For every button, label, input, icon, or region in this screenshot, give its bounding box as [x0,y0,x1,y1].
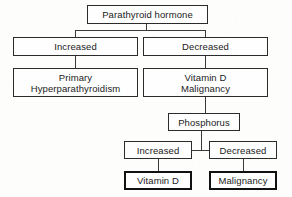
node-vitamin-d[interactable]: Vitamin D [124,171,192,190]
node-pth-increased[interactable]: Increased [13,37,138,56]
node-malignancy[interactable]: Malignancy [209,171,277,190]
node-label: Vitamin D [137,175,179,186]
node-label: Phosphorus [178,117,230,128]
node-parathyroid-hormone[interactable]: Parathyroid hormone [87,5,208,24]
node-label-line2: Malignancy [181,83,230,94]
node-phosphorus[interactable]: Phosphorus [168,113,240,131]
connector-increased-to-primary [75,56,76,68]
node-label-line1: Primary [59,72,92,83]
node-label: Increased [137,145,180,156]
node-phosphorus-increased[interactable]: Increased [124,141,192,159]
node-label-line1: Vitamin D [185,72,227,83]
connector-decreased-to-vitd-malignancy [205,56,206,68]
node-primary-hyperparathyroidism[interactable]: Primary Hyperparathyroidism [13,68,138,97]
connector-pth-split-bar [75,30,206,31]
connector-phosdecreased-to-malignancy [243,158,244,171]
connector-phosphorus-split-bar [192,150,210,151]
node-label: Malignancy [218,175,267,186]
connector-pth-to-increased [75,30,76,37]
connector-phosincreased-to-vitamind [158,158,159,171]
connector-pth-to-decreased [205,30,206,37]
node-label-line2: Hyperparathyroidism [31,83,121,94]
node-vitamind-malignancy[interactable]: Vitamin D Malignancy [143,68,268,97]
node-label: Parathyroid hormone [102,9,193,20]
connector-phosphorus-stem [201,131,202,150]
connector-vitdmal-to-phosphorus [205,97,206,113]
node-label: Decreased [220,145,267,156]
node-pth-decreased[interactable]: Decreased [143,37,268,56]
node-label: Increased [54,41,97,52]
node-label: Decreased [182,41,229,52]
node-phosphorus-decreased[interactable]: Decreased [209,141,277,159]
flowchart-diagram: Parathyroid hormone Increased Decreased … [0,0,292,197]
